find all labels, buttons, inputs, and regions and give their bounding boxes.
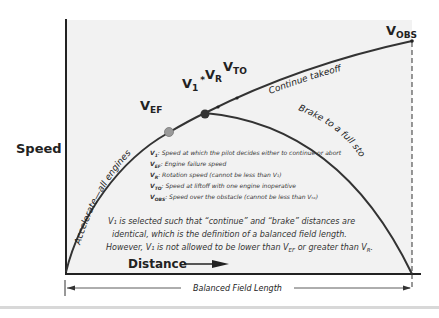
note: V₁ is selected such that “continue” and …	[106, 217, 373, 253]
vr-point	[216, 105, 219, 108]
dim-arrow-right	[403, 286, 411, 291]
balanced-field-length-diagram: Accelerate—all engines Continue takeoff …	[0, 0, 439, 318]
dimension-label: Balanced Field Length	[193, 284, 282, 293]
y-axis-label: Speed	[16, 141, 62, 156]
note-line-1: V₁ is selected such that “continue” and …	[108, 217, 355, 226]
diagram-canvas: Accelerate—all engines Continue takeoff …	[0, 0, 439, 318]
bottom-divider	[0, 306, 439, 309]
v1-point	[201, 110, 210, 119]
note-line-2: identical, which is the definition of a …	[112, 230, 347, 239]
dim-arrow-left	[67, 286, 75, 291]
note-line-3: However, V₁ is not allowed to be lower t…	[106, 243, 373, 253]
x-axis-label: Distance	[128, 257, 187, 271]
vef-point	[165, 128, 174, 137]
vto-point	[235, 96, 238, 99]
